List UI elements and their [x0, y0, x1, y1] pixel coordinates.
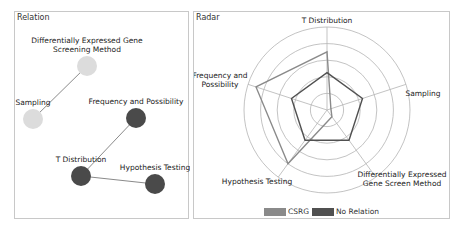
relation-edge — [81, 176, 155, 184]
radar-axis — [327, 110, 376, 177]
relation-node-tdist[interactable] — [71, 166, 91, 186]
relation-graph: Differentially Expressed GeneScreening M… — [15, 12, 190, 220]
relation-panel: Relation Differentially Expressed GeneSc… — [14, 11, 189, 219]
relation-node-label: Hypothesis Testing — [120, 163, 190, 172]
radar-title: Radar — [196, 13, 220, 22]
legend-label: No Relation — [336, 207, 379, 216]
radar-axis-label: Hypothesis Testing — [222, 177, 293, 186]
relation-node-dege[interactable] — [77, 56, 97, 76]
radar-axis — [327, 84, 406, 110]
relation-node-label: Differentially Expressed Gene — [31, 36, 143, 45]
legend-item-no-relation[interactable]: No Relation — [312, 207, 379, 216]
radar-axis-label: Gene Screen Method — [363, 179, 442, 188]
radar-legend: CSRGNo Relation — [194, 207, 449, 216]
radar-axis — [278, 110, 327, 177]
legend-swatch — [264, 208, 286, 216]
radar-panel: Radar T DistributionSamplingDifferential… — [193, 11, 450, 219]
relation-edge — [33, 66, 87, 119]
radar-axis-label: T Distribution — [301, 16, 353, 25]
relation-node-label: Screening Method — [53, 45, 121, 54]
radar-axis-label: Frequency and — [194, 71, 248, 80]
legend-item-csrg[interactable]: CSRG — [264, 207, 309, 216]
relation-node-label: Frequency and Possibility — [89, 97, 184, 106]
radar-axis-label: Possibility — [201, 80, 239, 89]
relation-node-label: Sampling — [15, 98, 50, 107]
radar-chart: T DistributionSamplingDifferentially Exp… — [194, 12, 451, 220]
relation-node-label: T Distribution — [55, 155, 107, 164]
legend-label: CSRG — [288, 207, 309, 216]
legend-swatch — [312, 208, 334, 216]
relation-title: Relation — [17, 13, 50, 22]
radar-axis-label: Differentially Expressed — [357, 170, 446, 179]
radar-axis-label: Sampling — [405, 89, 440, 98]
relation-node-sampling[interactable] — [23, 109, 43, 129]
relation-node-freq[interactable] — [126, 108, 146, 128]
relation-node-hypo[interactable] — [145, 174, 165, 194]
